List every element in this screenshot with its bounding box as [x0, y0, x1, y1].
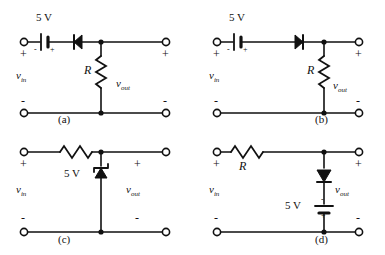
terminal-output-top-a	[162, 38, 169, 45]
output-plus-sign-a: +	[162, 48, 169, 60]
source-value-label-c: 5 V	[64, 168, 80, 179]
terminal-input-top-d	[213, 148, 220, 155]
output-voltage-label-a: vout	[116, 78, 130, 92]
battery-minus-sign-d: -	[321, 196, 324, 204]
output-voltage-label-d: vout	[335, 184, 349, 198]
input-voltage-label-b: vin	[209, 70, 219, 84]
output-plus-sign-b: +	[355, 48, 362, 60]
diode-triangle-d	[317, 170, 331, 182]
output-voltage-label-c: vout	[126, 184, 140, 198]
input-minus-sign-b: -	[214, 95, 218, 107]
circuit-panel-b: 5 V - + + - vin + - vout R (b)	[193, 0, 385, 127]
junction-dot-bottom-c	[98, 229, 103, 234]
circuit-figure-sheet: 5 V - + + - vin + - vout R (a)	[0, 0, 385, 255]
battery-plus-sign-b: +	[243, 46, 248, 54]
battery-minus-sign-b: -	[227, 46, 230, 54]
resistor-label-a: R	[84, 64, 91, 76]
circuit-schematic-c	[0, 128, 192, 255]
output-minus-sign-b: -	[356, 95, 360, 107]
output-minus-sign-a: -	[163, 95, 167, 107]
output-plus-sign-c: +	[134, 158, 141, 170]
resistor-label-d: R	[239, 160, 246, 172]
terminal-input-top-b	[213, 38, 220, 45]
resistor-body-a	[96, 56, 106, 88]
panel-caption-c: (c)	[58, 234, 70, 245]
junction-dot-bottom-a	[98, 110, 103, 115]
terminal-output-top-b	[355, 38, 362, 45]
terminal-output-bottom-c	[162, 228, 169, 235]
input-minus-sign-c: -	[21, 212, 25, 224]
terminal-output-top-d	[355, 148, 362, 155]
battery-plus-sign-a: +	[50, 46, 55, 54]
junction-dot-top-a	[98, 39, 103, 44]
diode-triangle-a	[74, 35, 82, 49]
input-plus-sign-d: +	[213, 158, 220, 170]
terminal-output-top-c	[162, 148, 169, 155]
input-minus-sign-d: -	[214, 212, 218, 224]
circuit-panel-a: 5 V - + + - vin + - vout R (a)	[0, 0, 192, 127]
terminal-input-bottom-c	[20, 228, 27, 235]
output-minus-sign-c: -	[135, 212, 139, 224]
terminal-input-top-a	[20, 38, 27, 45]
output-plus-sign-d: +	[355, 158, 362, 170]
terminal-output-bottom-d	[355, 228, 362, 235]
junction-dot-top-b	[321, 39, 326, 44]
input-minus-sign-a: -	[21, 95, 25, 107]
source-value-label-a: 5 V	[36, 12, 52, 23]
panel-caption-b: (b)	[315, 114, 328, 125]
terminal-input-bottom-d	[213, 228, 220, 235]
terminal-output-bottom-b	[355, 109, 362, 116]
input-plus-sign-c: +	[20, 158, 27, 170]
resistor-body-b	[319, 56, 329, 88]
terminal-input-top-c	[20, 148, 27, 155]
resistor-body-c	[60, 146, 92, 158]
battery-plus-sign-d: +	[321, 212, 326, 220]
circuit-panel-c: 5 V + - vin + - vout (c)	[0, 128, 192, 255]
circuit-schematic-d	[193, 128, 385, 255]
output-minus-sign-d: -	[356, 212, 360, 224]
terminal-input-bottom-a	[20, 109, 27, 116]
terminal-output-bottom-a	[162, 109, 169, 116]
source-value-label-b: 5 V	[229, 12, 245, 23]
output-voltage-label-b: vout	[333, 80, 347, 94]
junction-dot-top-c	[98, 149, 103, 154]
panel-caption-d: (d)	[315, 234, 328, 245]
input-plus-sign-b: +	[213, 48, 220, 60]
source-value-label-d: 5 V	[285, 200, 301, 211]
junction-dot-top-d	[321, 149, 326, 154]
battery-minus-sign-a: -	[34, 46, 37, 54]
input-plus-sign-a: +	[20, 48, 27, 60]
circuit-panel-d: R 5 V - + + - vin + - vout (d)	[193, 128, 385, 255]
input-voltage-label-a: vin	[16, 70, 26, 84]
zener-triangle-c	[95, 168, 107, 178]
input-voltage-label-d: vin	[209, 184, 219, 198]
terminal-input-bottom-b	[213, 109, 220, 116]
input-voltage-label-c: vin	[16, 184, 26, 198]
resistor-label-b: R	[307, 64, 314, 76]
resistor-body-d	[231, 146, 263, 158]
diode-triangle-b	[295, 35, 303, 49]
panel-caption-a: (a)	[58, 114, 70, 125]
